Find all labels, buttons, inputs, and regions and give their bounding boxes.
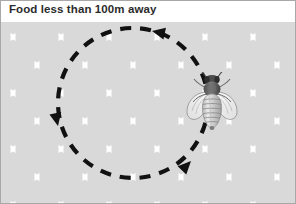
dance-path-layer xyxy=(0,0,296,204)
honey-bee-top-view xyxy=(185,72,239,134)
bee-abdomen xyxy=(202,94,221,130)
arrowhead-top xyxy=(151,25,166,39)
arrowhead-left xyxy=(49,112,63,127)
bee-round-dance-figure: Food less than 100m away xyxy=(0,0,296,204)
